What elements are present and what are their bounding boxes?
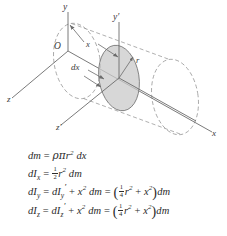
eq4-fraction: 14 [118, 203, 123, 217]
eq4-equals-2: = [104, 205, 110, 216]
figure-page: z x y O y′ z′ r x dx dm [0, 0, 227, 236]
eq4-term1-prime: ′ [63, 201, 65, 211]
eq4-lhs-subscript: z [37, 210, 40, 219]
eq3-frac-denominator: 4 [119, 191, 124, 199]
eq1-dx: dx [76, 150, 86, 161]
cylinder-far-end-ellipse [146, 56, 203, 138]
eq2-frac-denominator: 2 [52, 173, 57, 181]
eq4-frac-numerator: 1 [118, 203, 123, 210]
eq2-r-exponent: 2 [62, 166, 66, 174]
eq4-lhs: dI [28, 205, 37, 216]
eq3-open-paren: ( [114, 185, 119, 200]
cylinder-diagram: z x y O y′ z′ r x dx [0, 0, 227, 145]
eq1-r-exponent: 2 [70, 149, 74, 157]
x-axis-line [68, 51, 212, 132]
eq3-lhs-subscript: y [37, 191, 40, 200]
y-prime-axis-label: y′ [112, 12, 120, 22]
dx-thickness-label: dx [71, 62, 80, 72]
eq4-plus-2: + [134, 205, 140, 216]
equation-dm: dm = ρπr2 dx [28, 149, 87, 161]
eq3-dm-2: dm [157, 186, 170, 197]
y-axis-label: y [62, 2, 68, 12]
eq1-equals: = [44, 150, 50, 161]
x-distance-arrow-left [70, 25, 84, 42]
eq4-open-paren: ( [113, 204, 118, 219]
eq3-fraction: 14 [119, 184, 124, 198]
eq1-lhs: dm [28, 150, 41, 161]
eq3-lhs: dI [28, 186, 37, 197]
eq2-frac-numerator: 1 [52, 166, 57, 173]
eq2-lhs: dI [28, 168, 37, 179]
cylinder-near-end-ellipse [48, 20, 105, 102]
eq1-pi: π [59, 149, 66, 161]
eq4-equals-1: = [43, 205, 49, 216]
eq4-frac-denominator: 4 [118, 210, 123, 218]
eq3-plus-1: + [69, 186, 75, 197]
eq4-r-exponent: 2 [128, 203, 132, 211]
eq4-dm-1: dm [88, 205, 101, 216]
eq2-dm: dm [69, 168, 82, 179]
eq3-x-exponent: 2 [83, 184, 87, 192]
z-axis-label: z [6, 94, 11, 104]
eq3-plus-2: + [135, 186, 141, 197]
eq2-lhs-subscript: x [37, 173, 40, 182]
eq3-equals-1: = [43, 186, 49, 197]
x-distance-label: x [85, 39, 90, 49]
equations-block: dm = ρπr2 dx dIx = 12r2 dm dIy = dIy′ + … [0, 145, 227, 236]
eq3-r-exponent: 2 [129, 184, 133, 192]
equation-dIx: dIx = 12r2 dm [28, 166, 82, 180]
x-axis-label: x [211, 128, 216, 138]
eq3-frac-numerator: 1 [119, 184, 124, 191]
eq3-equals-2: = [105, 186, 111, 197]
z-prime-axis-label: z′ [55, 122, 63, 132]
equation-dIy: dIy = dIy′ + x2 dm = (14r2 + x2)dm [28, 184, 170, 201]
eq2-equals: = [43, 168, 49, 179]
z-axis-line [12, 51, 68, 98]
eq4-dm-2: dm [156, 205, 169, 216]
origin-label: O [54, 41, 61, 51]
eq2-fraction: 12 [52, 166, 57, 180]
eq3-term1-prime: ′ [64, 182, 66, 192]
radius-label: r [136, 55, 140, 65]
eq3-term1: dI [52, 186, 61, 197]
eq3-dm-1: dm [89, 186, 102, 197]
equation-dIz: dIz = dIz′ + x2 dm = (14r2 + x2)dm [28, 203, 169, 220]
eq4-x-exponent: 2 [82, 203, 86, 211]
eq4-plus-1: + [68, 205, 74, 216]
